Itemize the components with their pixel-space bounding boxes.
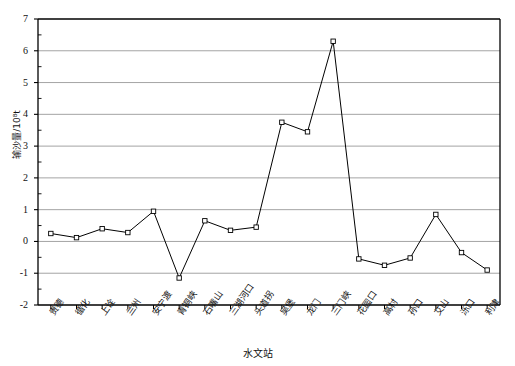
- data-point-marker: [151, 209, 155, 213]
- data-point-marker: [254, 225, 258, 229]
- data-point-marker: [382, 263, 386, 267]
- data-point-marker: [49, 231, 53, 235]
- data-point-marker: [203, 219, 207, 223]
- data-point-marker: [408, 256, 412, 260]
- data-point-marker: [74, 235, 78, 239]
- data-point-marker: [357, 257, 361, 261]
- data-point-marker: [126, 230, 130, 234]
- y-tick-label: 2: [6, 173, 28, 183]
- x-axis-title: 水文站: [0, 345, 515, 360]
- data-point-marker: [331, 39, 335, 43]
- y-tick-label: 1: [6, 205, 28, 215]
- y-tick-label: 7: [6, 14, 28, 24]
- y-tick-label: 3: [6, 141, 28, 151]
- y-tick-label: 4: [6, 109, 28, 119]
- y-tick-label: 0: [6, 236, 28, 246]
- data-point-marker: [434, 212, 438, 216]
- data-point-marker: [177, 276, 181, 280]
- data-point-marker: [100, 227, 104, 231]
- y-tick-label: 6: [6, 46, 28, 56]
- y-tick-label: 5: [6, 78, 28, 88]
- chart-container: 输沙量/10⁸t 水文站 -2-101234567 贵德循化上诠兰州安宁渡青铜峡…: [0, 0, 515, 366]
- y-axis-title: 输沙量/10⁸t: [10, 95, 23, 175]
- y-tick-label: -2: [6, 300, 28, 310]
- data-point-marker: [459, 250, 463, 254]
- data-point-marker: [228, 228, 232, 232]
- plot-background: [38, 19, 500, 305]
- data-point-marker: [485, 268, 489, 272]
- data-point-marker: [280, 120, 284, 124]
- data-point-marker: [305, 130, 309, 134]
- y-tick-label: -1: [6, 268, 28, 278]
